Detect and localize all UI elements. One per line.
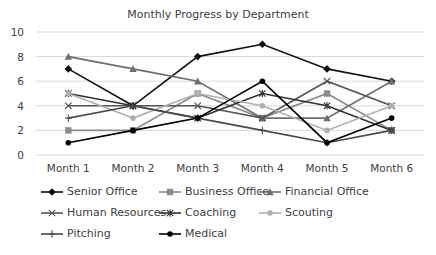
plus-marker-icon (49, 230, 55, 237)
legend-item-scouting: Scouting (258, 206, 333, 219)
legend-item-medical: Medical (158, 227, 227, 240)
diamond-marker-icon (65, 65, 73, 73)
legend-item-financial-office: Financial Office (258, 185, 369, 198)
circle-legend-icon (158, 229, 182, 239)
legend-label: Coaching (185, 206, 236, 219)
y-tick-label: 6 (17, 75, 24, 87)
circle-marker-icon (195, 91, 201, 97)
circle-marker-icon (66, 140, 72, 146)
y-tick-label: 0 (17, 149, 24, 161)
circle-marker-icon (267, 210, 273, 216)
plus-legend-icon (40, 229, 64, 239)
square-marker-icon (167, 188, 173, 194)
legend-label: Scouting (285, 206, 333, 219)
legend-item-coaching: Coaching (158, 206, 236, 219)
circle-marker-icon (389, 103, 395, 109)
line-chart: 0246810Month 1Month 2Month 3Month 4Month… (0, 0, 436, 185)
legend-item-business-office: Business Office (158, 185, 269, 198)
legend-label: Financial Office (285, 185, 369, 198)
x-legend-icon (40, 208, 64, 218)
legend-item-senior-office: Senior Office (40, 185, 138, 198)
circle-marker-icon (66, 91, 72, 97)
plus-marker-icon (259, 127, 265, 134)
legend-label: Human Resources (67, 206, 166, 219)
diamond-marker-icon (259, 41, 267, 49)
square-legend-icon (158, 187, 182, 197)
y-tick-label: 8 (17, 51, 24, 63)
legend-label: Business Office (185, 185, 269, 198)
triangle-legend-icon (258, 187, 282, 197)
circle-marker-icon (389, 115, 395, 121)
legend-label: Medical (185, 227, 227, 240)
x-tick-label: Month 6 (370, 162, 413, 174)
x-tick-label: Month 3 (176, 162, 219, 174)
x-tick-label: Month 2 (112, 162, 155, 174)
diamond-legend-icon (40, 187, 64, 197)
circle-marker-icon (167, 231, 173, 237)
x-tick-label: Month 4 (241, 162, 284, 174)
legend-item-pitching: Pitching (40, 227, 111, 240)
legend-label: Pitching (67, 227, 111, 240)
circle-marker-icon (130, 115, 136, 121)
circle-marker-icon (324, 128, 330, 134)
square-marker-icon (65, 127, 71, 133)
circle-marker-icon (260, 78, 266, 84)
circle-legend-icon (258, 208, 282, 218)
diamond-marker-icon (323, 65, 331, 73)
y-tick-label: 10 (11, 26, 24, 38)
diamond-marker-icon (48, 188, 56, 196)
asterisk-legend-icon (158, 208, 182, 218)
series-line (68, 44, 391, 106)
x-tick-label: Month 5 (306, 162, 349, 174)
x-tick-label: Month 1 (47, 162, 90, 174)
y-tick-label: 4 (17, 100, 24, 112)
legend-label: Senior Office (67, 185, 138, 198)
y-tick-label: 2 (17, 124, 24, 136)
circle-marker-icon (260, 103, 266, 109)
circle-marker-icon (195, 115, 201, 121)
square-marker-icon (324, 90, 330, 96)
circle-marker-icon (130, 128, 136, 134)
legend-item-human-resources: Human Resources (40, 206, 166, 219)
circle-marker-icon (324, 140, 330, 146)
plus-marker-icon (65, 114, 71, 121)
